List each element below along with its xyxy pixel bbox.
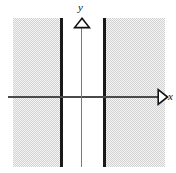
y-axis-label: y bbox=[78, 2, 83, 13]
y-axis-line bbox=[81, 26, 82, 167]
open-triangle-up-icon bbox=[73, 17, 91, 29]
left-boundary-line bbox=[60, 18, 63, 167]
x-axis-line bbox=[8, 96, 160, 98]
right-shaded-region bbox=[104, 18, 165, 167]
x-axis-label: x bbox=[168, 91, 173, 102]
right-boundary-line bbox=[103, 18, 106, 167]
left-shaded-region bbox=[13, 18, 61, 167]
math-graph-figure: x y bbox=[0, 0, 176, 173]
